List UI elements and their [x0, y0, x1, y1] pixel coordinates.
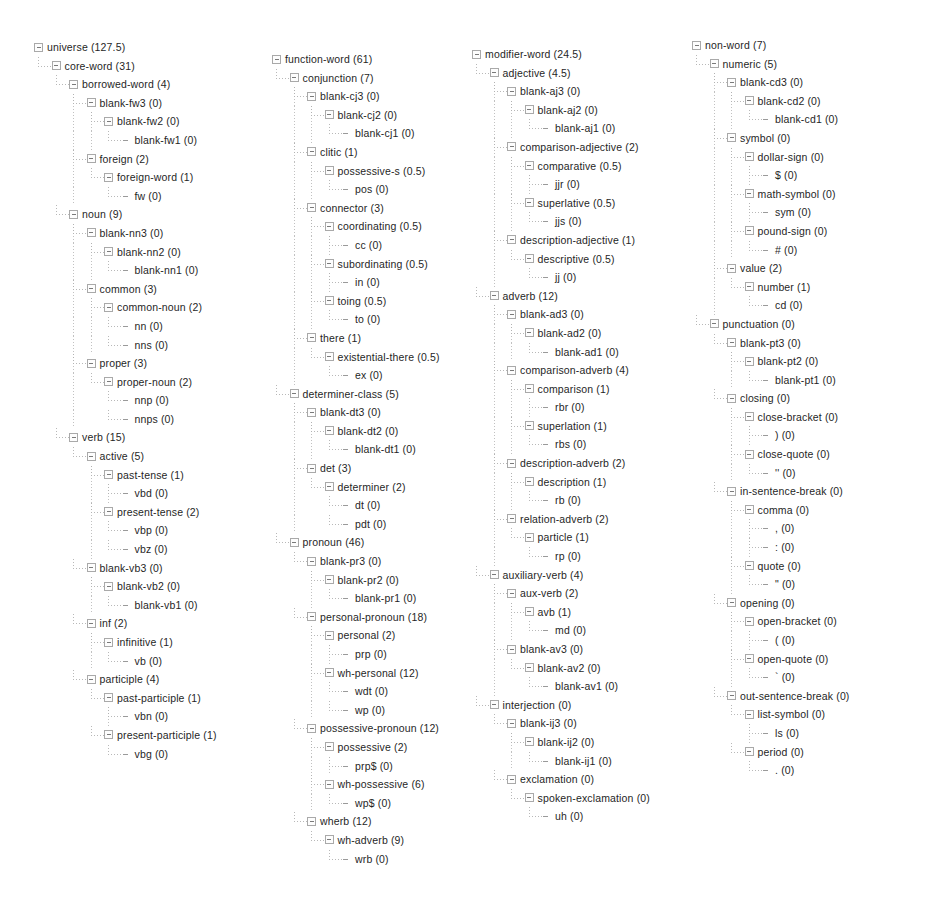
expand-collapse-box-icon[interactable]: [325, 110, 334, 119]
expand-collapse-box-icon[interactable]: [307, 464, 316, 473]
expand-collapse-box-icon[interactable]: [325, 575, 334, 584]
expand-collapse-box-icon[interactable]: [325, 835, 334, 844]
expand-collapse-box-icon[interactable]: [472, 50, 481, 59]
expand-collapse-box-icon[interactable]: [710, 59, 719, 68]
expand-collapse-box-icon[interactable]: [87, 284, 96, 293]
expand-collapse-box-icon[interactable]: [525, 663, 534, 672]
expand-collapse-box-icon[interactable]: [52, 61, 61, 70]
expand-collapse-box-icon[interactable]: [507, 775, 516, 784]
expand-collapse-box-icon[interactable]: [745, 505, 754, 514]
expand-collapse-box-icon[interactable]: [507, 645, 516, 654]
expand-collapse-box-icon[interactable]: [325, 426, 334, 435]
expand-collapse-box-icon[interactable]: [727, 264, 736, 273]
expand-collapse-box-icon[interactable]: [307, 557, 316, 566]
expand-collapse-box-icon[interactable]: [87, 359, 96, 368]
expand-collapse-box-icon[interactable]: [87, 98, 96, 107]
expand-collapse-box-icon[interactable]: [87, 675, 96, 684]
expand-collapse-box-icon[interactable]: [325, 259, 334, 268]
expand-collapse-box-icon[interactable]: [745, 226, 754, 235]
expand-collapse-box-icon[interactable]: [525, 254, 534, 263]
expand-collapse-box-icon[interactable]: [692, 41, 701, 50]
expand-collapse-box-icon[interactable]: [325, 780, 334, 789]
expand-collapse-box-icon[interactable]: [307, 147, 316, 156]
expand-collapse-box-icon[interactable]: [525, 328, 534, 337]
expand-collapse-box-icon[interactable]: [290, 538, 299, 547]
expand-collapse-box-icon[interactable]: [745, 617, 754, 626]
expand-collapse-box-icon[interactable]: [87, 619, 96, 628]
expand-collapse-box-icon[interactable]: [525, 421, 534, 430]
expand-collapse-box-icon[interactable]: [525, 198, 534, 207]
expand-collapse-box-icon[interactable]: [525, 607, 534, 616]
expand-collapse-box-icon[interactable]: [745, 189, 754, 198]
expand-collapse-box-icon[interactable]: [307, 724, 316, 733]
expand-collapse-box-icon[interactable]: [507, 310, 516, 319]
expand-collapse-box-icon[interactable]: [745, 412, 754, 421]
expand-collapse-box-icon[interactable]: [325, 222, 334, 231]
expand-collapse-box-icon[interactable]: [325, 352, 334, 361]
expand-collapse-box-icon[interactable]: [507, 235, 516, 244]
expand-collapse-box-icon[interactable]: [490, 291, 499, 300]
expand-collapse-box-icon[interactable]: [507, 87, 516, 96]
expand-collapse-box-icon[interactable]: [490, 700, 499, 709]
expand-collapse-box-icon[interactable]: [507, 142, 516, 151]
expand-collapse-box-icon[interactable]: [325, 631, 334, 640]
expand-collapse-box-icon[interactable]: [104, 693, 113, 702]
expand-collapse-box-icon[interactable]: [490, 570, 499, 579]
expand-collapse-box-icon[interactable]: [507, 719, 516, 728]
expand-collapse-box-icon[interactable]: [525, 161, 534, 170]
expand-collapse-box-icon[interactable]: [325, 668, 334, 677]
expand-collapse-box-icon[interactable]: [727, 78, 736, 87]
expand-collapse-box-icon[interactable]: [272, 55, 281, 64]
expand-collapse-box-icon[interactable]: [307, 817, 316, 826]
expand-collapse-box-icon[interactable]: [727, 133, 736, 142]
expand-collapse-box-icon[interactable]: [727, 338, 736, 347]
expand-collapse-box-icon[interactable]: [325, 296, 334, 305]
expand-collapse-box-icon[interactable]: [507, 366, 516, 375]
expand-collapse-box-icon[interactable]: [745, 282, 754, 291]
expand-collapse-box-icon[interactable]: [87, 563, 96, 572]
expand-collapse-box-icon[interactable]: [307, 408, 316, 417]
expand-collapse-box-icon[interactable]: [745, 96, 754, 105]
expand-collapse-box-icon[interactable]: [727, 691, 736, 700]
expand-collapse-box-icon[interactable]: [710, 319, 719, 328]
expand-collapse-box-icon[interactable]: [104, 247, 113, 256]
expand-collapse-box-icon[interactable]: [525, 533, 534, 542]
expand-collapse-box-icon[interactable]: [69, 210, 78, 219]
expand-collapse-box-icon[interactable]: [104, 470, 113, 479]
expand-collapse-box-icon[interactable]: [507, 589, 516, 598]
expand-collapse-box-icon[interactable]: [525, 105, 534, 114]
expand-collapse-box-icon[interactable]: [104, 303, 113, 312]
expand-collapse-box-icon[interactable]: [69, 433, 78, 442]
expand-collapse-box-icon[interactable]: [104, 638, 113, 647]
expand-collapse-box-icon[interactable]: [525, 737, 534, 746]
expand-collapse-box-icon[interactable]: [490, 68, 499, 77]
expand-collapse-box-icon[interactable]: [727, 598, 736, 607]
expand-collapse-box-icon[interactable]: [325, 482, 334, 491]
expand-collapse-box-icon[interactable]: [727, 394, 736, 403]
expand-collapse-box-icon[interactable]: [307, 333, 316, 342]
expand-collapse-box-icon[interactable]: [727, 487, 736, 496]
expand-collapse-box-icon[interactable]: [745, 654, 754, 663]
expand-collapse-box-icon[interactable]: [507, 459, 516, 468]
expand-collapse-box-icon[interactable]: [307, 203, 316, 212]
expand-collapse-box-icon[interactable]: [87, 228, 96, 237]
expand-collapse-box-icon[interactable]: [307, 612, 316, 621]
expand-collapse-box-icon[interactable]: [745, 357, 754, 366]
expand-collapse-box-icon[interactable]: [745, 747, 754, 756]
expand-collapse-box-icon[interactable]: [507, 514, 516, 523]
expand-collapse-box-icon[interactable]: [525, 477, 534, 486]
expand-collapse-box-icon[interactable]: [290, 73, 299, 82]
expand-collapse-box-icon[interactable]: [104, 377, 113, 386]
expand-collapse-box-icon[interactable]: [87, 154, 96, 163]
expand-collapse-box-icon[interactable]: [325, 742, 334, 751]
expand-collapse-box-icon[interactable]: [745, 561, 754, 570]
expand-collapse-box-icon[interactable]: [34, 43, 43, 52]
expand-collapse-box-icon[interactable]: [745, 450, 754, 459]
expand-collapse-box-icon[interactable]: [745, 152, 754, 161]
expand-collapse-box-icon[interactable]: [307, 92, 316, 101]
expand-collapse-box-icon[interactable]: [745, 710, 754, 719]
expand-collapse-box-icon[interactable]: [104, 507, 113, 516]
expand-collapse-box-icon[interactable]: [525, 384, 534, 393]
expand-collapse-box-icon[interactable]: [87, 452, 96, 461]
expand-collapse-box-icon[interactable]: [104, 730, 113, 739]
